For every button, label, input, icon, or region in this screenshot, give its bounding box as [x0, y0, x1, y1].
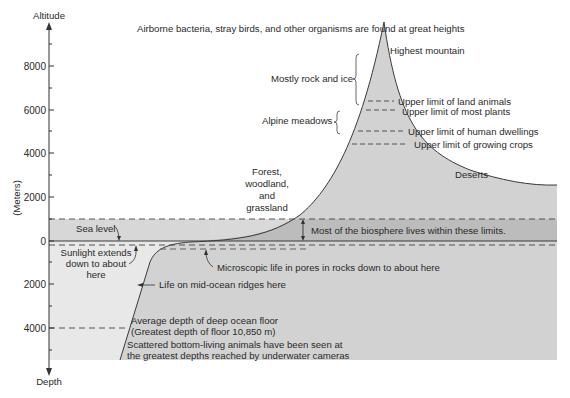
unit-label: (Meters) — [11, 180, 22, 216]
forest-label-3: and — [259, 190, 275, 201]
depth-label: Depth — [36, 376, 62, 387]
tick-8000: 8000 — [24, 61, 47, 72]
sea-surface-band — [49, 219, 209, 241]
deserts-label: Deserts — [455, 169, 488, 180]
microscopic-label: Microscopic life in pores in rocks down … — [217, 262, 440, 273]
sunlight-label-2: down to about — [66, 258, 127, 269]
biosphere-label: Most of the biosphere lives within these… — [311, 225, 506, 236]
altitude-label: Altitude — [33, 10, 65, 21]
limit-plants-label: Upper limit of most plants — [402, 106, 510, 117]
tick-6000: 6000 — [24, 105, 47, 116]
rock-ice-label: Mostly rock and ice — [271, 73, 353, 84]
alpine-meadows-label: Alpine meadows — [262, 115, 333, 126]
tick-0: 0 — [40, 236, 46, 247]
alpine-brace-icon — [334, 111, 340, 134]
tick-depth-2000: 2000 — [24, 279, 47, 290]
avg-depth-label-1: Average depth of deep ocean floor — [131, 315, 279, 326]
up-arrow-icon — [46, 22, 52, 30]
highest-mountain-label: Highest mountain — [390, 45, 465, 56]
scattered-label-1: Scattered bottom-living animals have bee… — [127, 339, 343, 350]
tick-2000: 2000 — [24, 192, 47, 203]
scattered-label-2: the greatest depths reached by underwate… — [127, 350, 350, 361]
down-arrow-icon — [46, 368, 52, 376]
limit-crops-label: Upper limit of growing crops — [414, 139, 533, 150]
forest-label-4: grassland — [246, 202, 288, 213]
forest-label-1: Forest, — [252, 166, 282, 177]
sunlight-label-1: Sunlight extends — [61, 247, 132, 258]
tick-depth-4000: 4000 — [24, 323, 47, 334]
rock-ice-brace-icon — [353, 54, 359, 105]
sunlight-label-3: here — [86, 269, 105, 280]
forest-label-2: woodland, — [244, 178, 289, 189]
header-note: Airborne bacteria, stray birds, and othe… — [137, 23, 465, 34]
ridges-label: Life on mid-ocean ridges here — [159, 279, 286, 290]
tick-4000: 4000 — [24, 148, 47, 159]
limit-dwellings-label: Upper limit of human dwellings — [408, 126, 539, 137]
sea-level-label: Sea level — [76, 223, 115, 234]
avg-depth-label-2: (Greatest depth of floor 10,850 m) — [131, 326, 276, 337]
biosphere-diagram: 8000 6000 4000 2000 0 2000 4000 Altitude… — [0, 0, 570, 398]
